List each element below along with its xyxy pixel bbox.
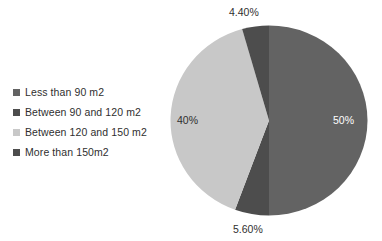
chart-legend: Less than 90 m2 Between 90 and 120 m2 Be… [13,82,173,162]
slice-label-between-90-and-120: 5.60% [233,223,263,235]
legend-item-label: Between 90 and 120 m2 [25,106,141,118]
legend-item-between-120-and-150[interactable]: Between 120 and 150 m2 [13,122,173,142]
legend-swatch-icon [13,89,20,96]
pie-chart-figure: Less than 90 m2 Between 90 and 120 m2 Be… [0,0,382,241]
legend-item-label: More than 150m2 [25,146,109,158]
legend-item-label: Between 120 and 150 m2 [25,126,147,138]
legend-swatch-icon [13,149,20,156]
legend-item-between-90-and-120[interactable]: Between 90 and 120 m2 [13,102,173,122]
slice-label-less-than-90: 50% [333,114,354,126]
legend-item-more-than-150[interactable]: More than 150m2 [13,142,173,162]
legend-item-less-than-90[interactable]: Less than 90 m2 [13,82,173,102]
legend-swatch-icon [13,109,20,116]
slice-label-more-than-150: 4.40% [229,6,259,18]
legend-swatch-icon [13,129,20,136]
slice-label-between-120-and-150: 40% [177,114,198,126]
legend-item-label: Less than 90 m2 [25,86,104,98]
